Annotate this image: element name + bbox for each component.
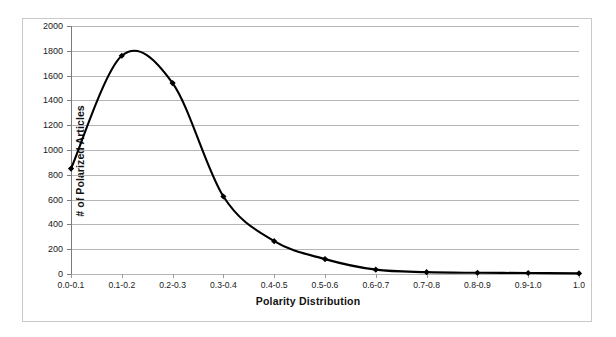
series-markers-group: [68, 53, 582, 277]
y-tick-label: 1400: [19, 95, 63, 105]
y-tick-label: 1000: [19, 145, 63, 155]
chart-screenshot: # of Polarized Articles 0200400600800100…: [0, 0, 616, 337]
y-tick-label: 2000: [19, 21, 63, 31]
data-point-marker: [322, 256, 328, 262]
y-tick-label: 1800: [19, 46, 63, 56]
data-point-marker: [525, 270, 531, 276]
data-point-marker: [373, 267, 379, 273]
chart-frame: # of Polarized Articles 0200400600800100…: [22, 18, 592, 322]
y-tick-label: 200: [19, 244, 63, 254]
y-tick-label: 1600: [19, 71, 63, 81]
y-tick-label: 600: [19, 195, 63, 205]
y-tick-label: 800: [19, 170, 63, 180]
data-point-marker: [576, 270, 582, 276]
data-point-marker: [424, 269, 430, 275]
x-axis-title: Polarity Distribution: [23, 295, 593, 307]
y-tick-label: 1200: [19, 120, 63, 130]
data-series-line: [71, 26, 579, 276]
data-point-marker: [474, 270, 480, 276]
y-tick-label: 400: [19, 219, 63, 229]
data-point-marker: [68, 166, 74, 172]
series-line-path: [71, 51, 579, 274]
plot-area: 0200400600800100012001400160018002000 0.…: [71, 26, 579, 273]
y-tick-label: 0: [19, 269, 63, 279]
x-tick-label: 1.0: [544, 280, 614, 290]
